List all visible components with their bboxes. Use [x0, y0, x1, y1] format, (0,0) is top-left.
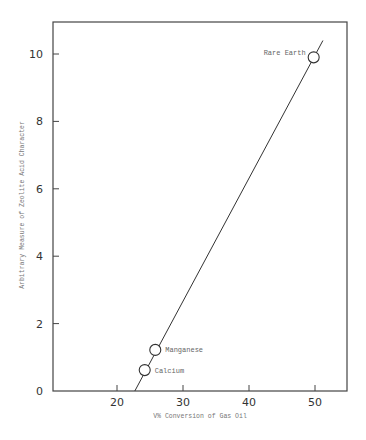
data-point-marker — [139, 365, 150, 376]
y-tick-label: 0 — [36, 385, 43, 398]
data-point-marker — [308, 52, 319, 63]
x-axis-label: V% Conversion of Gas Oil — [153, 413, 247, 420]
y-tick-label: 4 — [36, 250, 43, 263]
y-tick-label: 6 — [36, 183, 43, 196]
x-tick-label: 50 — [308, 396, 322, 409]
fit-line — [135, 41, 323, 391]
x-tick-label: 30 — [176, 396, 190, 409]
data-point-marker — [150, 344, 161, 355]
y-axis-ticks: 0246810 — [29, 48, 59, 398]
chart: 0246810 20304050 CalciumManganeseRare Ea… — [0, 0, 366, 440]
x-tick-label: 20 — [110, 396, 124, 409]
point-annotation: Rare Earth — [264, 49, 306, 57]
y-tick-label: 8 — [36, 115, 43, 128]
point-annotation: Manganese — [165, 346, 203, 354]
point-annotation: Calcium — [155, 367, 184, 375]
y-tick-label: 2 — [36, 318, 43, 331]
x-tick-label: 40 — [242, 396, 256, 409]
y-axis-label: Arbitrary Measure of Zeolite Acid Charac… — [19, 121, 26, 289]
x-axis-ticks: 20304050 — [110, 385, 322, 409]
y-tick-label: 10 — [29, 48, 43, 61]
